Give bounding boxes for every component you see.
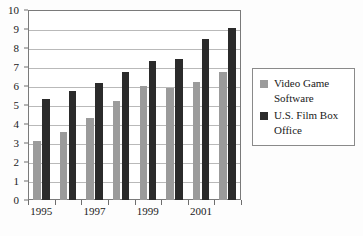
y-tick-label: 4 [14,119,20,130]
y-tick-label: 5 [14,100,20,111]
y-tick-label: 10 [8,5,19,16]
gridline [29,49,240,50]
gridline [29,87,240,88]
legend-label: Video Game Software [274,76,348,106]
chart-legend: Video Game SoftwareU.S. Film Box Office [252,68,355,146]
legend-swatch-us-film-box-office [260,112,268,120]
x-tick-label: 1995 [30,205,52,218]
gridline [29,163,240,164]
y-tick-label: 3 [14,138,20,149]
gridline [29,106,240,107]
legend-entry: U.S. Film Box Office [260,108,348,138]
y-tick-label: 1 [14,176,20,187]
legend-entry: Video Game Software [260,76,348,106]
legend-swatch-video-game-software [260,80,268,88]
x-axis: 1995199719992001 [28,205,241,223]
legend-label: U.S. Film Box Office [274,108,348,138]
gridline [29,182,240,183]
gridline [29,125,240,126]
gridline [29,30,240,31]
gridline [29,68,240,69]
gridline [29,144,240,145]
x-tick-mark [241,200,242,205]
y-axis: 012345678910 [0,10,24,200]
bar-chart-figure: 012345678910 1995199719992001 Video Game… [0,0,363,236]
x-tick-label: 1997 [84,205,106,218]
plot-area [28,10,241,200]
y-tick-label: 6 [14,81,20,92]
y-tick-label: 0 [14,195,20,206]
y-tick-label: 8 [14,43,20,54]
y-tick-label: 7 [14,62,20,73]
x-tick-label: 2001 [190,205,212,218]
x-tick-label: 1999 [137,205,159,218]
y-tick-label: 9 [14,24,20,35]
y-tick-label: 2 [14,157,20,168]
